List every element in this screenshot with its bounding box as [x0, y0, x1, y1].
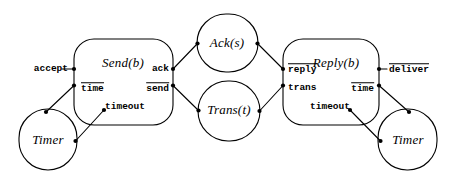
- edge-ack-to-reply: [258, 44, 284, 70]
- port-ack-right-dot: [255, 41, 259, 45]
- port-trans-left-dot: [196, 108, 200, 112]
- port-reply-time-dot: [377, 83, 381, 87]
- action-label-reply[interactable]: reply: [288, 63, 317, 75]
- action-label-trans[interactable]: trans: [288, 83, 317, 93]
- port-reply-trans-dot: [281, 83, 285, 87]
- action-label-send[interactable]: send: [146, 82, 169, 94]
- port-timer-left-top-dot: [44, 110, 48, 114]
- node-label-trans: Trans(t): [207, 102, 251, 118]
- action-label-time-left[interactable]: time: [81, 82, 104, 94]
- port-timer-left-side-dot: [73, 139, 77, 143]
- port-send-ack-dot: [171, 67, 175, 71]
- edge-trans-to-reply: [260, 86, 284, 112]
- port-timer-right-side-dot: [378, 139, 382, 143]
- edge-reply-to-timer: [379, 86, 409, 113]
- action-label-accept[interactable]: accept: [34, 64, 68, 74]
- node-label-timer-right: Timer: [392, 132, 423, 148]
- port-reply-deliver-dot: [377, 67, 381, 71]
- node-label-ack: Ack(s): [210, 35, 244, 51]
- port-timer-right-top-dot: [407, 110, 411, 114]
- port-reply-reply-dot: [281, 67, 285, 71]
- node-label-send: Send(b): [102, 55, 144, 71]
- action-label-timeout-left[interactable]: timeout: [105, 102, 145, 112]
- port-ack-left-dot: [195, 41, 199, 45]
- action-label-ack[interactable]: ack: [152, 64, 169, 74]
- node-label-reply: Reply(b): [313, 55, 359, 71]
- node-label-timer-left: Timer: [32, 132, 63, 148]
- edge-send-to-timer: [46, 86, 74, 113]
- port-send-time-dot: [72, 83, 76, 87]
- action-label-timeout-right[interactable]: timeout: [310, 102, 350, 112]
- port-send-send-dot: [171, 83, 175, 87]
- action-label-deliver[interactable]: deliver: [389, 63, 429, 75]
- edge-send-to-ack: [173, 44, 198, 70]
- edge-send-to-trans: [173, 86, 199, 111]
- action-label-time-right[interactable]: time: [351, 82, 374, 94]
- diagram-vector-layer: [0, 0, 454, 178]
- diagram-canvas: Send(b) Reply(b) Ack(s) Trans(t) Timer T…: [0, 0, 454, 178]
- port-send-accept-dot: [72, 67, 76, 71]
- port-trans-right-dot: [257, 109, 261, 113]
